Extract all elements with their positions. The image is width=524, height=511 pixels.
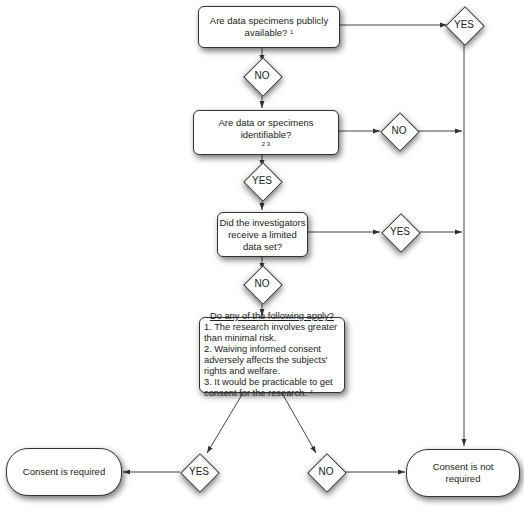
criteria-item-3: 3. It would be practicable to get consen…: [204, 377, 340, 399]
decision-label: NO: [379, 125, 419, 137]
decision-label: YES: [380, 226, 420, 238]
decision-label: YES: [444, 19, 484, 31]
outcome-consent-required: Consent is required: [6, 448, 122, 496]
criteria-item-3-text: 3. It would be practicable to get consen…: [204, 377, 333, 398]
footnote-marker: 4: [309, 389, 312, 395]
decision-label: YES: [179, 466, 219, 478]
footnote-marker: 2 3: [262, 141, 270, 148]
question-text: Are data or specimens identifiable?: [194, 117, 338, 141]
decision-label: NO: [306, 466, 346, 478]
question-text: Are data specimens publicly available?: [210, 15, 328, 38]
question-criteria-list: Do any of the following apply? 1. The re…: [199, 317, 345, 393]
question-publicly-available: Are data specimens publicly available? 1: [198, 6, 340, 48]
decision-label: NO: [242, 278, 282, 290]
question-text: Did the investigators receive a limited …: [218, 217, 307, 253]
question-limited-data-set: Did the investigators receive a limited …: [217, 212, 308, 257]
outcome-consent-not-required: Consent is not required: [406, 449, 520, 497]
outcome-text: Consent is not required: [428, 461, 498, 485]
footnote-marker: 1: [290, 29, 293, 35]
question-identifiable: Are data or specimens identifiable? 2 3: [193, 110, 339, 155]
outcome-text: Consent is required: [23, 466, 105, 478]
criteria-item-2: 2. Waiving informed consent adversely af…: [204, 344, 340, 377]
criteria-heading: Do any of the following apply?: [204, 311, 340, 322]
criteria-item-1: 1. The research involves greater than mi…: [204, 322, 340, 344]
decision-label: YES: [242, 175, 282, 187]
decision-label: NO: [242, 70, 282, 82]
